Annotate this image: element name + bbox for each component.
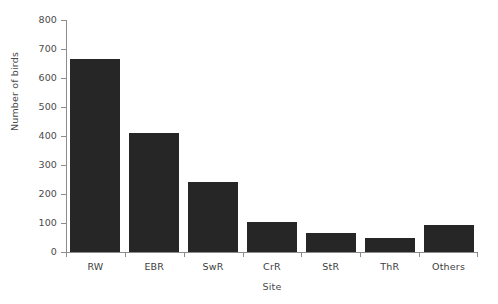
bar [247,222,297,252]
y-tick: 600 [61,78,66,79]
x-category-label: Others [419,261,478,272]
y-axis-line [66,20,67,253]
y-tick: 800 [61,20,66,21]
x-category-label: EBR [125,261,184,272]
x-tick [243,253,244,257]
x-axis-line [66,252,478,253]
x-tick [419,253,420,257]
x-tick [360,253,361,257]
y-tick: 300 [61,165,66,166]
y-tick-label: 800 [39,14,57,25]
y-tick: 500 [61,107,66,108]
x-tick [66,253,67,257]
y-tick-label: 100 [39,217,57,228]
y-tick: 700 [61,49,66,50]
x-category-label: CrR [243,261,302,272]
y-tick-label: 0 [51,246,57,257]
x-tick [184,253,185,257]
y-tick-label: 500 [39,101,57,112]
bar [70,59,120,252]
x-category-label: SwR [184,261,243,272]
x-tick [301,253,302,257]
plot-area: 0100200300400500600700800 RWEBRSwRCrRStR… [66,20,478,253]
y-tick: 100 [61,223,66,224]
y-tick-label: 300 [39,159,57,170]
bar [306,233,356,252]
x-category-label: RW [66,261,125,272]
y-tick-label: 200 [39,188,57,199]
bar [424,225,474,252]
y-tick: 200 [61,194,66,195]
x-category-label: StR [301,261,360,272]
x-tick [477,253,478,257]
x-tick [125,253,126,257]
y-tick-label: 700 [39,43,57,54]
bar [129,133,179,252]
bar [188,182,238,252]
y-tick-label: 400 [39,130,57,141]
x-category-label: ThR [360,261,419,272]
bar-chart-figure: Number of birds 010020030040050060070080… [0,0,498,304]
y-tick: 400 [61,136,66,137]
y-tick-label: 600 [39,72,57,83]
bar [365,238,415,253]
x-axis-title: Site [66,281,478,292]
y-axis-title: Number of birds [9,32,20,152]
